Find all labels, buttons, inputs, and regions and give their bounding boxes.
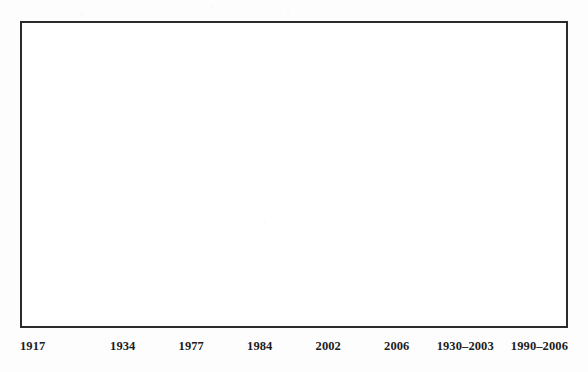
x-axis-tick-label: 1990–2006 <box>500 336 569 356</box>
x-axis-tick-label: 1984 <box>226 336 295 356</box>
plot-frame <box>20 21 568 328</box>
x-axis-tick-label: 2006 <box>363 336 432 356</box>
x-axis-label-row: 1917 1934 1977 1984 2002 2006 1930–2003 … <box>20 336 568 356</box>
figure-container: 1917 1934 1977 1984 2002 2006 1930–2003 … <box>0 0 588 372</box>
x-axis-tick-label: 1977 <box>157 336 226 356</box>
plot-area <box>22 23 566 326</box>
x-axis-tick-label: 1917 <box>20 336 89 356</box>
x-axis-tick-label: 1930–2003 <box>431 336 500 356</box>
x-axis-tick-label: 2002 <box>294 336 363 356</box>
x-axis-tick-label: 1934 <box>89 336 158 356</box>
